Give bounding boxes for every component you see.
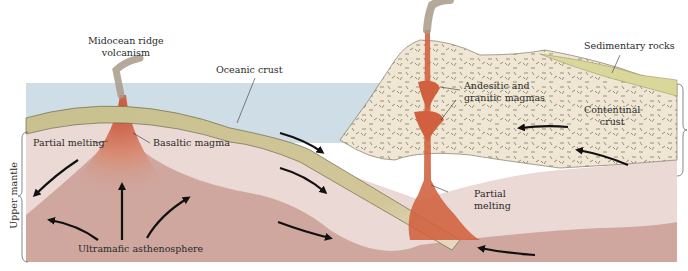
label-andesitic-line1: Andesitic and (464, 80, 545, 92)
label-ultramafic-asthenosphere: Ultramafic asthenosphere (78, 243, 203, 255)
arc-smoke (427, 0, 450, 30)
label-upper-mantle: Upper mantle (8, 162, 19, 229)
label-partial-melting-right: Partial melting (474, 188, 511, 212)
label-continental-line2: crust (584, 116, 640, 128)
label-andesitic-granitic: Andesitic and granitic magmas (464, 80, 545, 104)
label-sedimentary-rocks: Sedimentary rocks (584, 40, 675, 52)
label-continental-crust: Contentinal crust (584, 104, 640, 128)
lithosphere-brace (677, 84, 687, 176)
label-partial-line1: Partial (474, 188, 511, 200)
label-basaltic-magma: Basaltic magma (153, 137, 230, 149)
label-midocean-ridge-line2: volcanism (88, 47, 164, 59)
label-midocean-ridge-line1: Midocean ridge (88, 35, 164, 47)
label-andesitic-line2: granitic magmas (464, 92, 545, 104)
label-oceanic-crust: Oceanic crust (216, 64, 283, 76)
label-midocean-ridge: Midocean ridge volcanism (88, 35, 164, 59)
label-partial-line2: melting (474, 200, 511, 212)
label-partial-melting-left: Partial melting (33, 137, 104, 149)
label-continental-line1: Contentinal (584, 104, 640, 116)
